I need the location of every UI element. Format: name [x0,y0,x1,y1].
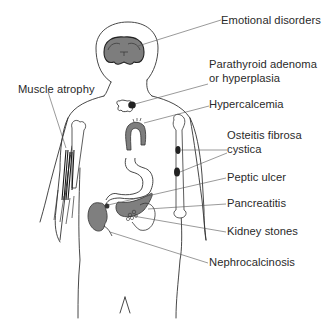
body-figure [0,0,330,327]
label-peptic-ulcer: Peptic ulcer [227,171,286,185]
crotch-line [120,297,130,313]
aortic-arch [126,118,146,150]
right-humerus [173,114,186,218]
label-emotional-disorders: Emotional disorders [221,14,321,28]
label-osteitis-line2: cystica [227,143,262,157]
label-muscle-atrophy: Muscle atrophy [18,83,95,97]
label-hypercalcemia: Hypercalcemia [209,98,284,112]
neck-outline [104,80,152,96]
brain [104,37,144,64]
left-humerus-muscle [54,120,86,224]
diagram: Emotional disorders Parathyroid adenoma … [0,0,330,327]
label-nephrocalcinosis: Nephrocalcinosis [209,256,295,270]
label-pancreatitis: Pancreatitis [227,197,286,211]
label-parathyroid-line2: or hyperplasia [209,72,280,86]
parathyroid-gland [117,100,136,112]
label-osteitis-line1: Osteitis fibrosa [227,129,302,143]
label-parathyroid-line1: Parathyroid adenoma [209,58,317,72]
pancreas [116,193,152,216]
left-body-side [78,168,80,318]
label-kidney-stones: Kidney stones [227,225,298,239]
